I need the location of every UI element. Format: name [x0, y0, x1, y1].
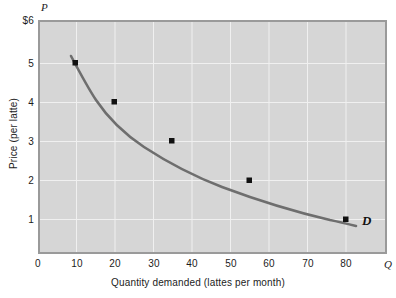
- x-tick-label-30: 30: [139, 258, 169, 269]
- x-tick-label-60: 60: [254, 258, 284, 269]
- x-tick-label-0: 0: [23, 258, 53, 269]
- data-point-20-4: [112, 99, 118, 105]
- x-tick-label-50: 50: [216, 258, 246, 269]
- x-tick-label-40: 40: [177, 258, 207, 269]
- x-tick-label-20: 20: [100, 258, 130, 269]
- y-tick-label-1: 1: [0, 214, 34, 225]
- y-axis-symbol: P: [41, 1, 48, 13]
- demand-curve-label: D: [362, 213, 371, 229]
- y-tick-label-6: $6: [0, 15, 34, 26]
- data-point-55-2: [247, 178, 253, 184]
- vertical-gridlines: [77, 22, 347, 252]
- y-tick-label-5: 5: [0, 58, 34, 69]
- plot-canvas: [0, 0, 396, 298]
- data-point-35-3: [169, 138, 175, 144]
- y-axis-title: Price (per latte): [8, 74, 19, 194]
- x-axis-title: Quantity demanded (lattes per month): [0, 277, 396, 288]
- x-axis-symbol: Q: [384, 258, 392, 270]
- demand-curve-figure: $6 5 4 3 2 1 0 10 20 30 40 50 60 70 80 P…: [0, 0, 396, 298]
- horizontal-gridlines: [40, 64, 385, 220]
- x-tick-label-70: 70: [293, 258, 323, 269]
- x-tick-label-10: 10: [62, 258, 92, 269]
- data-point-80-1: [343, 217, 349, 223]
- data-point-10-5: [73, 60, 79, 66]
- x-tick-label-80: 80: [331, 258, 361, 269]
